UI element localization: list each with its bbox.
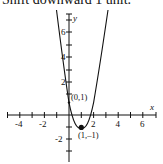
x-tick-label: 6 xyxy=(140,119,145,129)
x-tick-label: 4 xyxy=(116,119,121,129)
parabola-chart: -4 -2 2 4 6 6 4 2 -2 y x (0,1) (1,–1) xyxy=(0,0,163,164)
x-tick-label: -2 xyxy=(39,119,47,129)
y-axis-label: y xyxy=(72,13,77,23)
vertex-label: (1,–1) xyxy=(78,130,99,140)
y-tick-label: -2 xyxy=(55,134,63,144)
x-axis-label: x xyxy=(149,102,154,112)
intercept-label: (0,1) xyxy=(71,92,87,102)
x-tick-label: 2 xyxy=(91,119,96,129)
y-tick-label: 2 xyxy=(61,77,66,87)
x-tick-label: -4 xyxy=(15,119,23,129)
intercept-point xyxy=(68,101,70,103)
y-tick-label: 6 xyxy=(61,27,66,37)
